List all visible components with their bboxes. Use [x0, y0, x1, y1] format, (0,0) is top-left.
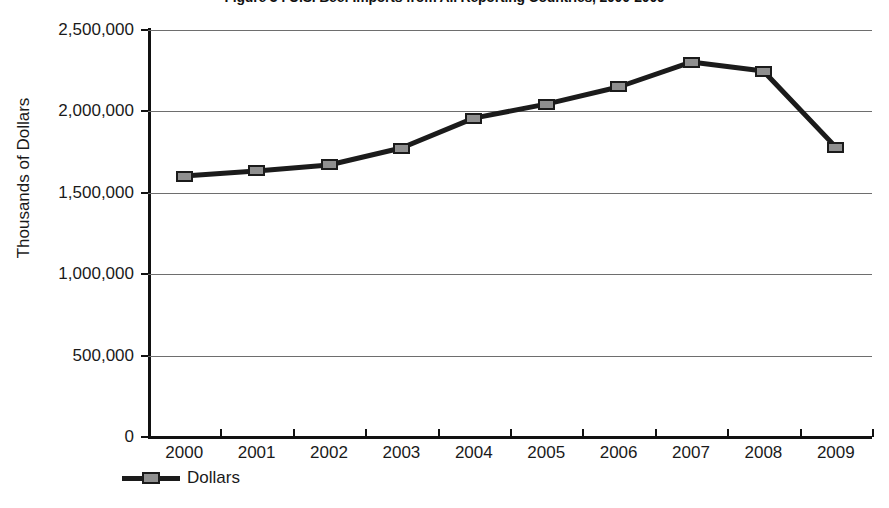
y-tick-label: 1,000,000 — [0, 264, 134, 284]
legend-marker-icon — [142, 472, 160, 484]
y-tick-mark — [141, 355, 148, 357]
y-tick-mark — [141, 110, 148, 112]
chart-title: Figure 3 : U.S. Beef Imports from All Re… — [0, 0, 889, 5]
y-tick-label: 1,500,000 — [0, 183, 134, 203]
y-tick-mark — [141, 29, 148, 31]
data-point-marker — [465, 113, 482, 124]
y-tick-label: 2,000,000 — [0, 101, 134, 121]
x-tick-label: 2004 — [434, 443, 514, 463]
y-tick-mark — [141, 273, 148, 275]
gridline — [148, 111, 872, 112]
gridline — [148, 356, 872, 357]
y-tick-label: 0 — [0, 427, 134, 447]
gridline — [148, 274, 872, 275]
data-point-marker — [393, 143, 410, 154]
x-tick-mark — [727, 429, 729, 437]
gridline — [148, 30, 872, 31]
legend-label-dollars: Dollars — [187, 468, 240, 488]
chart-legend: Dollars — [122, 468, 240, 488]
x-tick-label: 2009 — [796, 443, 876, 463]
legend-swatch-dollars — [122, 471, 180, 485]
data-point-marker — [827, 142, 844, 153]
x-tick-mark — [438, 429, 440, 437]
x-tick-label: 2008 — [723, 443, 803, 463]
x-tick-mark — [148, 429, 150, 437]
data-point-marker — [176, 171, 193, 182]
x-tick-mark — [872, 429, 874, 437]
x-tick-label: 2001 — [217, 443, 297, 463]
data-point-marker — [321, 159, 338, 170]
x-tick-mark — [293, 429, 295, 437]
y-tick-label: 2,500,000 — [0, 20, 134, 40]
x-tick-mark — [365, 429, 367, 437]
y-axis-line — [148, 28, 151, 439]
x-tick-mark — [800, 429, 802, 437]
data-point-marker — [610, 81, 627, 92]
x-tick-mark — [655, 429, 657, 437]
x-tick-label: 2003 — [361, 443, 441, 463]
x-tick-label: 2002 — [289, 443, 369, 463]
data-point-marker — [538, 99, 555, 110]
x-tick-mark — [510, 429, 512, 437]
x-tick-label: 2000 — [144, 443, 224, 463]
x-tick-mark — [220, 429, 222, 437]
y-tick-mark — [141, 192, 148, 194]
x-tick-label: 2006 — [579, 443, 659, 463]
y-tick-label: 500,000 — [0, 346, 134, 366]
data-point-marker — [755, 66, 772, 77]
gridline — [148, 193, 872, 194]
x-tick-label: 2007 — [651, 443, 731, 463]
data-point-marker — [248, 165, 265, 176]
y-tick-mark — [141, 436, 148, 438]
x-tick-label: 2005 — [506, 443, 586, 463]
x-tick-mark — [582, 429, 584, 437]
data-point-marker — [683, 57, 700, 68]
